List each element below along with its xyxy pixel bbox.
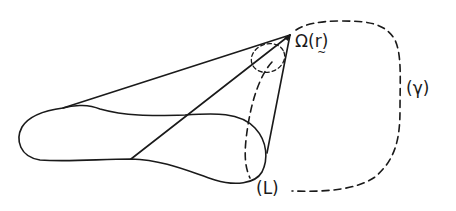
cone-line-middle <box>131 35 290 159</box>
cone-line-top <box>63 35 290 108</box>
cone-line-right <box>267 35 290 153</box>
vector-tilde-mark: ~ <box>317 46 326 59</box>
solid-angle-diagram <box>0 0 456 211</box>
omega-symbol: Ω <box>295 31 308 51</box>
L-label: (L) <box>256 180 279 197</box>
dashed-curve-L <box>245 62 272 178</box>
gamma-label: (γ) <box>406 80 429 97</box>
omega-open-paren: ( <box>308 31 315 51</box>
closed-contour <box>19 105 266 183</box>
